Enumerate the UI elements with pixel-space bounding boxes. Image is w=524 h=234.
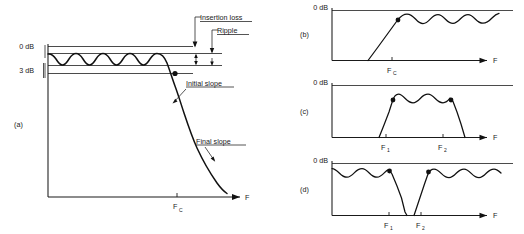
panel-a-ripple-measure-arrow-up — [194, 54, 198, 58]
panel-b-x-axis-label: F — [493, 56, 498, 65]
panel-d-zero-db-label: 0 dB — [313, 156, 328, 165]
panel-c-f1-label: F — [381, 143, 386, 152]
panel-c-x-axis-label: F — [493, 133, 498, 142]
figure-page: 0 dB 3 dB Insertion loss Ripple Initial … — [0, 0, 524, 234]
panel-a: 0 dB 3 dB Insertion loss Ripple Initial … — [14, 13, 252, 213]
panel-a-initial-slope-label: Initial slope — [186, 79, 222, 88]
panel-b-x-axis-arrowhead — [480, 58, 488, 64]
panel-d-f1-three-db-marker — [387, 169, 392, 174]
panel-d-f1-label: F — [384, 221, 389, 230]
panel-a-final-slope-label: Final slope — [196, 137, 231, 146]
panel-c-f2-subscript: 2 — [444, 147, 447, 153]
panel-d-x-axis-arrowhead — [480, 213, 488, 219]
filter-response-figure: 0 dB 3 dB Insertion loss Ripple Initial … — [0, 0, 524, 234]
panel-b-fc-subscript: C — [393, 70, 397, 76]
panel-d-f2-label: F — [416, 221, 421, 230]
panel-a-ripple-label: Ripple — [217, 26, 237, 35]
panel-b-zero-db-label: 0 dB — [313, 3, 328, 12]
panel-a-x-axis-label: F — [245, 193, 250, 202]
panel-d-f1-subscript: 1 — [390, 225, 393, 231]
panel-a-x-axis-arrowhead — [232, 194, 240, 200]
panel-a-response-curve — [48, 53, 227, 193]
panel-b-fc-label: F — [387, 66, 392, 75]
panel-a-three-db-point-marker — [172, 71, 177, 76]
panel-c-f2-label: F — [438, 143, 443, 152]
panel-a-zero-db-label: 0 dB — [19, 42, 34, 51]
panel-a-insertion-loss-label: Insertion loss — [200, 13, 243, 22]
panel-a-ripple-arrowhead-top — [210, 48, 214, 54]
panel-c-f1-subscript: 1 — [387, 147, 390, 153]
panel-d-f2-three-db-marker — [426, 170, 431, 175]
panel-a-fc-label: F — [173, 202, 178, 211]
panel-a-ripple-measure-arrow-down — [194, 61, 198, 65]
panel-a-fc-subscript: C — [179, 207, 183, 213]
panel-c-f2-three-db-marker — [449, 98, 454, 103]
panel-d-f2-subscript: 2 — [422, 225, 425, 231]
panel-d-panel-label: (d) — [300, 185, 309, 194]
panel-d: 0 dB F F 1 F 2 (d) — [300, 156, 513, 232]
panel-a-final-slope-arrowhead — [211, 157, 216, 162]
panel-c-zero-db-label: 0 dB — [313, 78, 328, 87]
panel-b-response-curve — [368, 13, 499, 60]
panel-a-panel-label: (a) — [14, 120, 23, 129]
panel-c-panel-label: (c) — [300, 107, 308, 116]
panel-c-x-axis-arrowhead — [480, 135, 488, 141]
panel-c: 0 dB F F 1 F 2 (c) — [300, 78, 513, 154]
panel-b-three-db-point-marker — [396, 18, 401, 23]
panel-d-left-response-curve — [332, 169, 407, 216]
panel-d-x-axis-label: F — [493, 211, 498, 220]
panel-b: 0 dB F F C (b) — [300, 3, 513, 77]
panel-b-panel-label: (b) — [300, 30, 309, 39]
panel-d-right-response-curve — [414, 169, 501, 216]
panel-a-insertion-loss-arrowhead — [193, 42, 198, 48]
panel-a-three-db-label: 3 dB — [19, 66, 34, 75]
panel-c-f1-three-db-marker — [391, 98, 396, 103]
